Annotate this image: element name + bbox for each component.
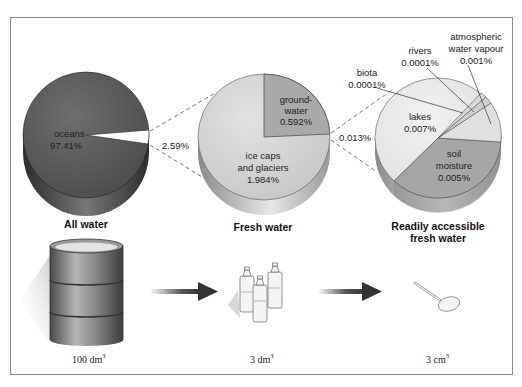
ice-caps-label-2: and glaciers xyxy=(237,162,288,173)
rivers-value: 0.0001% xyxy=(401,57,439,68)
groundwater-label-1: ground- xyxy=(280,94,313,105)
lakes-label: lakes xyxy=(409,111,431,122)
oceans-value: 97.41% xyxy=(50,140,83,151)
barrel-volume: 100 dm3 xyxy=(72,352,106,365)
pie-all-water: oceans 97.41% All water xyxy=(23,72,149,230)
rivers-label: rivers xyxy=(408,45,431,56)
spoon-icon xyxy=(415,283,461,314)
arrow-right-icon xyxy=(150,282,218,301)
fresh-water-share: 2.59% xyxy=(162,140,189,151)
lakes-value: 0.007% xyxy=(404,123,437,134)
pie-title-fresh-water: Fresh water xyxy=(234,221,293,233)
pie-title-all-water: All water xyxy=(64,218,108,230)
biota-value: 0.0001% xyxy=(348,79,386,90)
soil-label-2: moisture xyxy=(436,160,472,171)
arrow-right-icon xyxy=(317,282,382,301)
groundwater-value: 0.592% xyxy=(280,116,313,127)
oceans-label: oceans xyxy=(54,128,85,139)
atmo-label-1: atmospheric xyxy=(450,31,502,42)
soil-label-1: soil xyxy=(447,148,461,159)
biota-label: biota xyxy=(357,67,378,78)
barrel-icon xyxy=(20,239,123,346)
pie-fresh-water: ground- water 0.592% ice caps and glacie… xyxy=(198,74,330,233)
bottles-volume: 3 dm3 xyxy=(250,352,274,365)
ice-caps-value: 1.984% xyxy=(247,174,280,185)
pie-title-accessible-1: Readily accessible xyxy=(391,220,485,232)
spoon-volume: 3 cm3 xyxy=(426,352,449,365)
atmo-label-2: water vapour xyxy=(448,43,504,54)
groundwater-label-2: water xyxy=(283,105,307,116)
atmo-value: 0.001% xyxy=(460,55,493,66)
water-distribution-diagram: oceans 97.41% All water 2.59% ground- wa… xyxy=(0,0,522,387)
bottles-icon xyxy=(228,263,282,322)
pie-title-accessible-2: fresh water xyxy=(410,232,466,244)
pie-accessible-water: lakes 0.007% soil moisture 0.005% biota … xyxy=(348,31,503,244)
accessible-share: 0.013% xyxy=(339,132,372,143)
ice-caps-label-1: ice caps xyxy=(246,150,281,161)
soil-value: 0.005% xyxy=(438,172,471,183)
